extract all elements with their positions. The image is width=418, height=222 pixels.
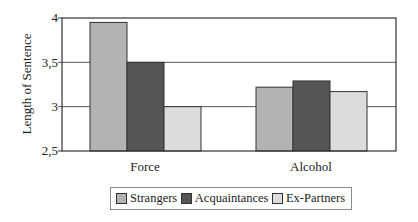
category-label-force: Force [90, 159, 200, 175]
bar-acquaintances-force [127, 62, 164, 151]
legend-label-strangers: Strangers [130, 191, 177, 206]
bar-ex-partners-alcohol [330, 92, 367, 151]
category-label-alcohol: Alcohol [256, 159, 366, 175]
legend-label-acquaintances: Acquaintances [195, 191, 269, 206]
bar-acquaintances-alcohol [293, 81, 330, 151]
bar-strangers-force [90, 22, 127, 151]
y-tick-2-5: 2,5 [28, 143, 58, 159]
bar-ex-partners-force [164, 107, 201, 151]
legend-item-acquaintances: Acquaintances [181, 191, 269, 206]
swatch-strangers [116, 193, 127, 204]
y-axis-label: Length of Sentence [19, 32, 35, 136]
swatch-acquaintances [181, 193, 192, 204]
y-tick-4: 4 [28, 10, 58, 26]
legend-item-ex-partners: Ex-Partners [272, 191, 345, 206]
bar-strangers-alcohol [256, 87, 293, 151]
swatch-ex-partners [272, 193, 283, 204]
bar-chart: 4 3,5 3 2,5 Length of Sentence Force Alc… [0, 0, 418, 222]
legend-label-ex-partners: Ex-Partners [286, 191, 345, 206]
legend-item-strangers: Strangers [116, 191, 177, 206]
legend: Strangers Acquaintances Ex-Partners [110, 187, 352, 210]
